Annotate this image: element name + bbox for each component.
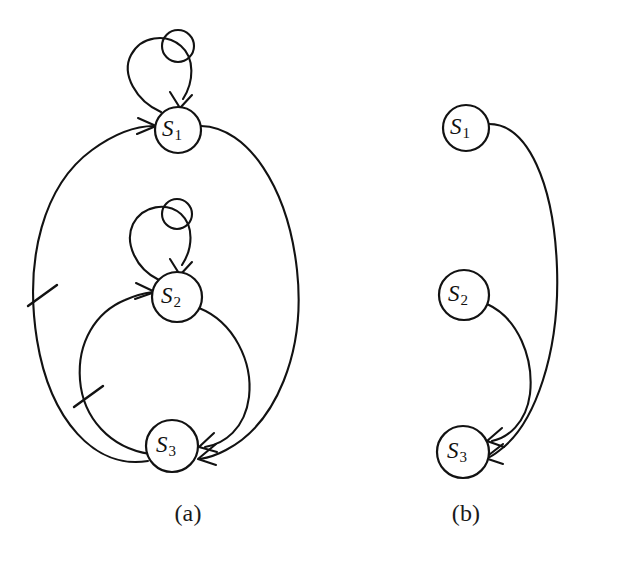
node-s1-label-b: S (450, 114, 462, 139)
node-s3-panel-b[interactable]: S3 (437, 426, 489, 478)
node-s1-label-a: S (162, 116, 174, 141)
tick-mark-2 (74, 386, 103, 407)
node-s2-label-b: S (448, 281, 460, 306)
edge-s3-to-s2[interactable] (80, 283, 155, 454)
self-loop-s1[interactable] (128, 30, 194, 112)
node-s1-subscript-a: 1 (175, 127, 183, 143)
node-s2-label-a: S (161, 283, 173, 308)
edge-b-s1-to-s3[interactable] (485, 124, 557, 464)
node-s1-panel-a[interactable]: S1 (155, 107, 201, 153)
node-s3-label-a: S (156, 432, 168, 457)
node-s1-panel-b[interactable]: S1 (443, 105, 489, 151)
edge-s1-to-s3[interactable] (198, 126, 299, 465)
node-s3-panel-a[interactable]: S3 (146, 420, 198, 472)
node-s2-panel-a[interactable]: S2 (152, 272, 202, 322)
edge-b-s2-to-s3[interactable] (487, 304, 531, 447)
panel-a-caption: (a) (128, 500, 248, 527)
edge-s2-to-s3[interactable] (199, 308, 250, 452)
node-s3-subscript-a: 3 (169, 443, 177, 459)
node-s2-panel-b[interactable]: S2 (439, 270, 489, 320)
figure-root: S1 S2 S3 (0, 0, 617, 565)
panel-a: S1 S2 S3 (28, 30, 299, 472)
node-s1-subscript-b: 1 (463, 125, 471, 141)
node-s3-subscript-b: 3 (460, 449, 468, 465)
node-s2-subscript-a: 2 (174, 294, 182, 310)
diagram-canvas: S1 S2 S3 (0, 0, 617, 565)
node-s3-label-b: S (447, 438, 459, 463)
panel-b: S1 S2 S3 (437, 105, 557, 478)
node-s2-subscript-b: 2 (461, 292, 469, 308)
panel-b-caption: (b) (406, 500, 526, 527)
self-loop-s2[interactable] (130, 199, 192, 280)
